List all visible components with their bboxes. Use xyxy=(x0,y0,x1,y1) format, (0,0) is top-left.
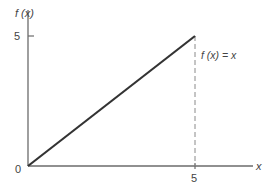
y-axis-label: f (x) xyxy=(15,7,34,19)
x-axis-label: x xyxy=(255,160,262,172)
origin-label: 0 xyxy=(15,163,21,175)
function-plot: f (x) 5 0 5 x f (x) = x xyxy=(0,0,272,194)
function-line xyxy=(28,36,195,166)
x-tick-label-5: 5 xyxy=(191,172,197,184)
curve-label: f (x) = x xyxy=(201,49,237,61)
y-tick-label-5: 5 xyxy=(14,30,20,42)
